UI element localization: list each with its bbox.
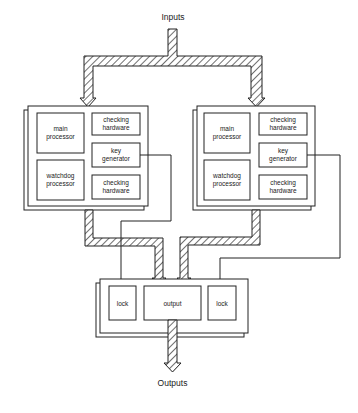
svg-text:generator: generator [102, 155, 131, 163]
svg-text:lock: lock [117, 300, 129, 307]
svg-text:processor: processor [213, 180, 242, 188]
svg-text:checking: checking [270, 116, 296, 124]
svg-text:watchdog: watchdog [46, 172, 75, 180]
inputs-label: Inputs [161, 12, 184, 22]
svg-text:processor: processor [46, 133, 75, 141]
svg-text:processor: processor [213, 133, 242, 141]
svg-text:hardware: hardware [102, 187, 129, 194]
svg-text:output: output [163, 300, 181, 308]
svg-text:hardware: hardware [269, 124, 296, 131]
svg-text:checking: checking [103, 179, 129, 187]
input-bus [80, 29, 265, 107]
svg-text:checking: checking [270, 179, 296, 187]
diagram-canvas: Inputs main processor watchdog processor… [0, 0, 358, 413]
svg-text:key: key [111, 147, 122, 155]
left-channel: main processor watchdog processor checki… [24, 106, 148, 210]
right-channel: main processor watchdog processor checki… [193, 106, 315, 210]
right-output-bus [177, 210, 260, 285]
svg-text:watchdog: watchdog [212, 172, 241, 180]
outputs-label: Outputs [158, 378, 188, 388]
svg-text:main: main [53, 125, 67, 132]
svg-text:hardware: hardware [102, 124, 129, 131]
svg-text:key: key [278, 147, 289, 155]
svg-text:hardware: hardware [269, 187, 296, 194]
svg-text:main: main [220, 125, 234, 132]
svg-text:generator: generator [269, 155, 298, 163]
svg-text:lock: lock [216, 300, 228, 307]
svg-text:checking: checking [103, 116, 129, 124]
svg-text:processor: processor [46, 180, 75, 188]
